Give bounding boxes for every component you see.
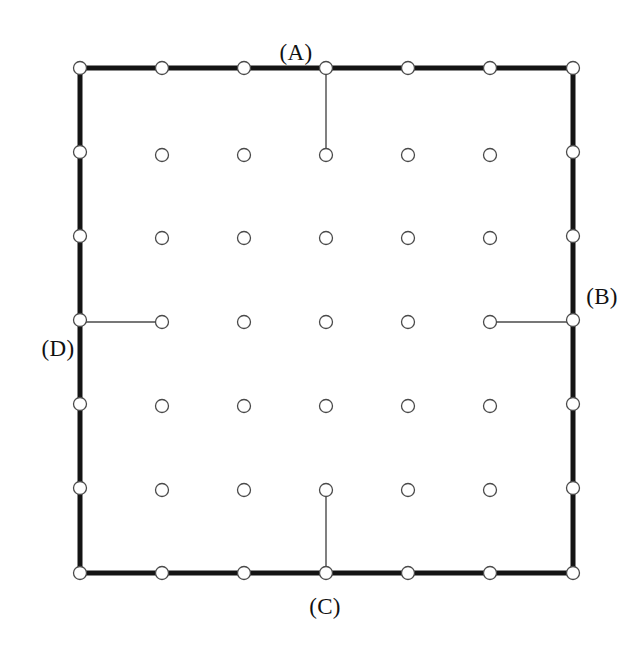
boundary-node-circle — [74, 314, 87, 327]
boundary-node-circle — [74, 398, 87, 411]
boundary-node-circle — [156, 62, 169, 75]
boundary-node-circle — [238, 62, 251, 75]
boundary-node-circle — [402, 62, 415, 75]
boundary-node-circle — [74, 482, 87, 495]
interior-node-circle — [238, 484, 251, 497]
boundary-node-circle — [567, 482, 580, 495]
interior-node-circle — [402, 400, 415, 413]
boundary-node-circle — [567, 567, 580, 580]
boundary-node-circle — [156, 567, 169, 580]
interior-node-circle — [320, 484, 333, 497]
boundary-node-circle — [402, 567, 415, 580]
boundary-node-circle — [74, 230, 87, 243]
connector-label-c: (C) — [309, 595, 341, 618]
boundary-node-circle — [567, 398, 580, 411]
boundary-node-circle — [320, 62, 333, 75]
interior-node-circle — [484, 316, 497, 329]
boundary-node-circle — [567, 314, 580, 327]
connector-label-b: (B) — [586, 285, 618, 308]
interior-node-circle — [238, 400, 251, 413]
interior-node-circle — [238, 316, 251, 329]
boundary-node-circle — [74, 146, 87, 159]
boundary-node-circle — [567, 62, 580, 75]
interior-node-circle — [484, 484, 497, 497]
boundary-node-circle — [74, 62, 87, 75]
interior-node-circle — [484, 400, 497, 413]
boundary-node-circle — [567, 230, 580, 243]
interior-node-circle — [238, 149, 251, 162]
interior-node-circle — [320, 400, 333, 413]
boundary-node-circle — [238, 567, 251, 580]
interior-node-circle — [402, 484, 415, 497]
interior-node-circle — [238, 232, 251, 245]
interior-node-circle — [156, 316, 169, 329]
boundary-node-circle — [484, 62, 497, 75]
boundary-node-circle — [74, 567, 87, 580]
interior-node-circle — [402, 316, 415, 329]
interior-node-circle — [484, 232, 497, 245]
boundary-node-circle — [484, 567, 497, 580]
connector-label-d: (D) — [42, 337, 75, 360]
boundary-node-circle — [320, 567, 333, 580]
interior-node-circle — [156, 232, 169, 245]
interior-node-circle — [320, 232, 333, 245]
interior-node-circle — [402, 232, 415, 245]
boundary-node-circle — [567, 146, 580, 159]
interior-node-circle — [320, 149, 333, 162]
interior-node-circle — [156, 149, 169, 162]
interior-node-circle — [320, 316, 333, 329]
diagram-canvas — [0, 0, 644, 648]
interior-node-circle — [484, 149, 497, 162]
interior-node-circle — [402, 149, 415, 162]
figure-root: (A)(B)(C)(D) — [0, 0, 644, 648]
connector-label-a: (A) — [280, 41, 313, 64]
interior-node-circle — [156, 484, 169, 497]
interior-node-circle — [156, 400, 169, 413]
